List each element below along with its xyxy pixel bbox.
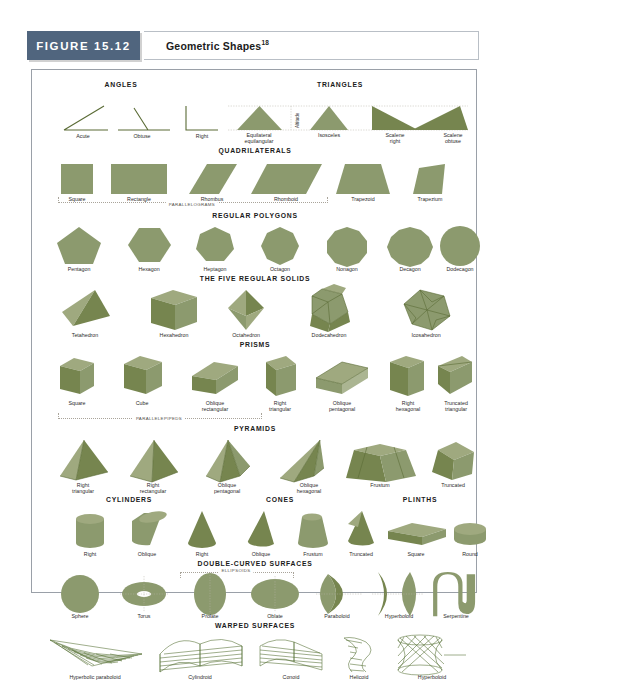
shape-label: Torus [138,613,151,619]
section-heading-plinths: PLINTHS [403,496,437,503]
section-heading-cylinders: CYLINDERS [106,496,152,503]
shape-label: Paraboloid [324,613,349,619]
bracket-label-parallelepipeds: PARALLELEPIPEDS [133,416,185,421]
shape-label: Hyperboloid [418,674,446,680]
section-heading-triangles: TRIANGLES [317,81,363,88]
shape-label: Oblique [138,551,156,557]
figure-title-footnote: 18 [261,39,269,46]
pyramids-shapes [32,436,478,484]
bracket-label-ellipsoids: ELLIPSOIDS [218,568,253,573]
shape-label: Oblique [252,551,270,557]
five-regular-solids-shapes [32,286,478,334]
quadrilaterals-shapes [32,158,478,198]
shape-label: Rightrectangular [140,482,167,494]
shape-label: Truncated [441,482,465,488]
regular-polygons-shapes [32,222,478,266]
shape-label: Nonagon [336,266,358,272]
figure-number-tag: FIGURE 15.12 [27,31,140,60]
section-heading-double-curved-surfaces: DOUBLE-CURVED SURFACES [198,560,313,567]
shape-label: Righttriangular [72,482,94,494]
shape-label: Obliquepentagonal [214,482,240,494]
section-heading-five-regular-solids: THE FIVE REGULAR SOLIDS [200,275,311,282]
shape-label: Square [407,551,424,557]
shape-label: Frustum [370,482,389,488]
shape-label: Obliquehexagonal [297,482,321,494]
shape-label: Trapezium [418,196,443,202]
shape-label: Truncatedtriangular [444,400,468,412]
section-heading-cones: CONES [266,496,294,503]
shape-label: Isosceles [318,132,340,138]
altitude-annotation: Altitude [295,113,300,128]
shape-label: Decagon [399,266,420,272]
shape-label: Conoid [283,674,300,680]
shape-label: Sphere [71,613,88,619]
shape-label: Cube [136,400,149,406]
shape-label: Prolate [202,613,219,619]
shape-label: Helicoid [350,674,369,680]
shape-label: Octahedron [232,332,260,338]
shape-label: Dodecagon [446,266,473,272]
section-heading-warped-surfaces: WARPED SURFACES [215,622,295,629]
shape-label: Square [68,400,85,406]
section-heading-prisms: PRISMS [240,341,271,348]
shape-label: Dodecahedron [312,332,347,338]
cylinders-cones-plinths-shapes [32,507,478,551]
figure-plate: ANGLES Acute Obtuse Right TRIANGLES Alti… [31,69,477,593]
shape-label: Round [462,551,478,557]
shape-label: Hexagon [138,266,159,272]
shape-label: Righttriangular [269,400,291,412]
bracket-label-parallelograms: PARALLELOGRAMS [166,202,218,207]
shape-label: Obliquerectangular [202,400,229,412]
section-heading-angles: ANGLES [105,81,138,88]
shape-label: Frustum [303,551,322,557]
figure-header: FIGURE 15.12 Geometric Shapes18 [27,31,479,60]
shape-label: Scaleneobtuse [443,132,462,144]
figure-title-bar: Geometric Shapes18 [144,31,479,60]
shape-label: Oblate [267,613,283,619]
shape-label: Heptagon [204,266,227,272]
section-heading-regular-polygons: REGULAR POLYGONS [212,212,297,219]
shape-label: Equilateralequilangular [245,132,274,144]
shape-label: Right [84,551,96,557]
shape-label: Trapezoid [351,196,374,202]
shape-label: Hexahedron [160,332,189,338]
section-heading-pyramids: PYRAMIDS [234,425,276,432]
shape-label: Hyperboloid [385,613,413,619]
prisms-shapes [32,352,478,402]
shape-label: Truncated [349,551,373,557]
page-title: Geometric Shapes18 [166,39,269,52]
warped-surfaces-shapes [32,632,478,674]
shape-label: Righthexagonal [396,400,420,412]
shape-label: Icosahedron [411,332,440,338]
shape-label: Hyperbolic paraboloid [69,674,120,680]
section-heading-quadrilaterals: QUADRILATERALS [218,147,291,154]
shape-label: Cylindroid [188,674,212,680]
figure-title-text: Geometric Shapes [166,40,261,52]
shape-label: Serpentine [443,613,469,619]
shape-label: Obliquepentagonal [329,400,355,412]
shape-label: Scaleneright [385,132,404,144]
shape-label: Pentagon [68,266,91,272]
shape-label: Octagon [270,266,290,272]
shape-label: Right [196,551,208,557]
shape-label: Tetahedron [72,332,99,338]
